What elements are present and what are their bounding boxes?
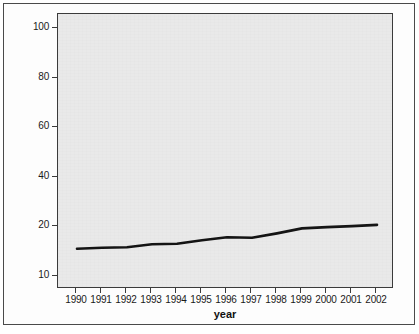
y-tick-mark [52, 126, 57, 127]
x-tick-mark [275, 288, 276, 293]
x-tick-mark [375, 288, 376, 293]
x-tick-mark [325, 288, 326, 293]
y-tick-label: 80 [38, 71, 49, 82]
data-series-line [77, 225, 377, 249]
data-line-svg [58, 14, 394, 289]
y-tick-label: 60 [38, 120, 49, 131]
x-tick-mark [350, 288, 351, 293]
plot-area [57, 13, 393, 288]
x-tick-mark [125, 288, 126, 293]
x-tick-mark [150, 288, 151, 293]
x-tick-mark [250, 288, 251, 293]
y-tick-mark [52, 176, 57, 177]
y-tick-mark [52, 77, 57, 78]
figure-container: 1008060402010 19901991199219931994199519… [0, 0, 419, 334]
y-tick-mark [52, 225, 57, 226]
x-tick-mark [300, 288, 301, 293]
x-tick-label: 2002 [360, 294, 392, 305]
y-tick-mark [52, 27, 57, 28]
x-axis-title: year [57, 308, 393, 320]
y-tick-label: 20 [38, 219, 49, 230]
y-tick-label: 100 [33, 21, 49, 32]
x-tick-mark [75, 288, 76, 293]
x-tick-mark [175, 288, 176, 293]
x-tick-mark [200, 288, 201, 293]
y-tick-label: 40 [38, 170, 49, 181]
x-tick-mark [100, 288, 101, 293]
x-tick-mark [225, 288, 226, 293]
y-tick-mark [52, 275, 57, 276]
y-tick-label: 10 [38, 269, 49, 280]
